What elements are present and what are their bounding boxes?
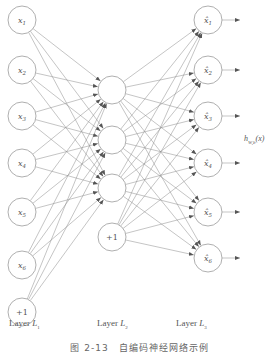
connection-edge: [123, 196, 196, 249]
output-node-4: x̂4: [194, 149, 222, 177]
connection-edge: [123, 125, 196, 180]
node-circle: [98, 126, 126, 154]
hidden-node-1: [98, 76, 126, 104]
input-node-3: x3: [8, 102, 36, 130]
layer-l2-label: Layer L2: [97, 318, 128, 330]
connection-edge: [126, 240, 194, 255]
hidden-node-3: [98, 174, 126, 202]
output-node-3: x̂3: [194, 102, 222, 130]
connection-edge: [28, 153, 105, 300]
connection-edge: [123, 98, 196, 154]
node-label: +1: [106, 233, 118, 242]
connection-edge: [123, 29, 196, 82]
connection-edge: [33, 149, 101, 203]
connection-edge: [28, 103, 105, 253]
connection-edge: [30, 200, 103, 301]
connection-edge: [35, 94, 98, 112]
output-node-1: x̂1: [194, 6, 222, 34]
diagram-canvas: x1x2x3x4x5x6+1+1x̂1x̂2x̂3x̂4x̂5x̂6 hW,b(…: [0, 0, 279, 355]
input-node-6: x6: [8, 251, 36, 279]
node-circle: [98, 76, 126, 104]
layer-l1-label: Layer L1: [9, 318, 40, 330]
network-diagram: x1x2x3x4x5x6+1+1x̂1x̂2x̂3x̂4x̂5x̂6: [0, 0, 279, 355]
input-node-5: x5: [8, 198, 36, 226]
connection-edge: [33, 29, 101, 82]
connection-edge: [118, 33, 202, 224]
bias-node-l2: +1: [98, 223, 126, 251]
connection-edge: [126, 94, 194, 113]
node-label: +1: [16, 308, 28, 317]
hidden-node-2: [98, 126, 126, 154]
connection-edge: [36, 192, 98, 209]
output-node-2: x̂2: [194, 56, 222, 84]
output-node-6: x̂6: [194, 244, 222, 272]
figure-caption: 图 2-13 自编码神经网络示例: [0, 341, 279, 354]
input-node-1: x1: [8, 6, 36, 34]
connection-edge: [121, 31, 199, 129]
connection-edge: [123, 172, 196, 229]
connection-edge: [123, 79, 196, 132]
connection-edge: [123, 148, 196, 203]
connection-edge: [126, 216, 194, 234]
output-node-5: x̂5: [194, 198, 222, 226]
connection-edge: [36, 73, 98, 87]
connection-edge: [126, 143, 194, 159]
connection-edge: [121, 151, 199, 247]
node-circle: [98, 174, 126, 202]
connection-edge: [33, 125, 101, 179]
input-node-2: x2: [8, 56, 36, 84]
connection-edge: [33, 99, 101, 154]
connection-edge: [27, 103, 106, 299]
connection-edge: [121, 101, 199, 201]
connection-edge: [29, 32, 106, 175]
connection-edge: [33, 79, 101, 132]
connection-edge: [121, 127, 199, 226]
layer-l3-label: Layer L3: [176, 318, 207, 330]
input-node-4: x4: [8, 149, 36, 177]
connection-edge: [30, 152, 103, 254]
output-hypothesis-label: hW,b(x): [244, 134, 264, 145]
